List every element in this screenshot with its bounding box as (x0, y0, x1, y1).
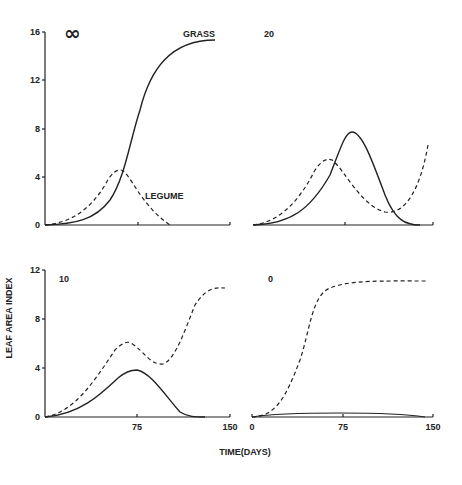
legume-line (253, 145, 428, 225)
xtick: 0 (249, 422, 254, 432)
grass-line (45, 370, 205, 417)
ytick: 12 (30, 75, 40, 85)
panel-20 (253, 132, 433, 225)
ytick: 0 (35, 412, 40, 422)
chart-canvas: LEAF AREA INDEX 16 12 8 4 0 ∞ GRASS LEGU… (0, 0, 462, 485)
ytick: 4 (35, 172, 40, 182)
ytick: 8 (35, 314, 40, 324)
ytick: 16 (30, 27, 40, 37)
grass-line (45, 40, 215, 225)
y-axis-label: LEAF AREA INDEX (4, 278, 14, 359)
panel-label: 20 (264, 29, 274, 39)
xtick: 75 (132, 422, 142, 432)
panel-0 (252, 281, 433, 417)
panel-label: ∞ (64, 21, 81, 45)
panel-10 (42, 270, 230, 417)
panel-label: 0 (268, 274, 273, 284)
legume-line (45, 288, 225, 417)
legume-label: LEGUME (145, 191, 184, 201)
ytick: 8 (35, 124, 40, 134)
grass-label: GRASS (183, 29, 215, 39)
grass-line (253, 132, 420, 225)
x-axis-label: TIME(DAYS) (219, 447, 271, 457)
xtick: 75 (338, 422, 348, 432)
xtick: 150 (222, 422, 237, 432)
legume-line (252, 281, 428, 417)
ytick: 4 (35, 363, 40, 373)
panel-infinity (42, 32, 230, 225)
ytick: 12 (30, 265, 40, 275)
xtick: 150 (425, 422, 440, 432)
panel-label: 10 (59, 274, 69, 284)
ytick: 0 (35, 220, 40, 230)
